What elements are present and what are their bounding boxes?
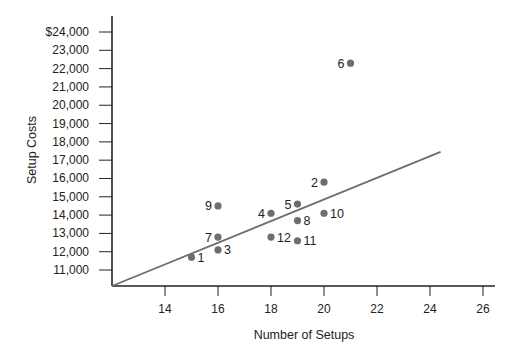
data-points: 123456789101112 [188, 57, 354, 265]
point-label: 6 [338, 57, 345, 71]
y-tick-label: 17,000 [52, 153, 89, 167]
x-tick-label: 24 [423, 302, 437, 316]
y-tick-label: $24,000 [46, 25, 90, 39]
data-point-1: 1 [188, 251, 205, 265]
point-label: 2 [311, 176, 318, 190]
x-tick-label: 14 [158, 302, 172, 316]
x-tick-label: 26 [476, 302, 490, 316]
x-tick-label: 20 [317, 302, 331, 316]
data-point-8: 8 [294, 214, 311, 228]
x-axis-title: Number of Setups [254, 328, 355, 342]
point-label: 9 [205, 199, 212, 213]
y-tick-label: 18,000 [52, 135, 89, 149]
regression-line [112, 152, 441, 286]
point-label: 1 [198, 251, 205, 265]
scatter-chart: $24,00023,00022,00021,00020,00019,00018,… [0, 0, 517, 354]
y-tick-label: 20,000 [52, 98, 89, 112]
data-point-11: 11 [294, 234, 317, 248]
y-tick-label: 16,000 [52, 171, 89, 185]
point-label: 3 [224, 243, 231, 257]
y-tick-label: 21,000 [52, 80, 89, 94]
point-label: 11 [304, 234, 317, 248]
y-tick-label: 15,000 [52, 190, 89, 204]
x-tick-label: 18 [264, 302, 278, 316]
y-tick-label: 19,000 [52, 117, 89, 131]
y-tick-label: 14,000 [52, 208, 89, 222]
data-point-4: 4 [258, 207, 275, 221]
y-tick-label: 23,000 [52, 43, 89, 57]
x-tick-label: 22 [370, 302, 384, 316]
y-tick-label: 13,000 [52, 226, 89, 240]
point-label: 8 [304, 214, 311, 228]
x-axis: 14161820222426 [112, 286, 495, 316]
data-point-12: 12 [267, 231, 291, 245]
point-label: 12 [277, 231, 291, 245]
point-label: 7 [205, 231, 212, 245]
y-tick-label: 11,000 [53, 263, 89, 277]
data-point-9: 9 [205, 199, 222, 213]
data-point-3: 3 [214, 243, 231, 257]
y-tick-label: 12,000 [52, 245, 89, 259]
y-axis: $24,00023,00022,00021,00020,00019,00018,… [46, 16, 112, 286]
point-label: 5 [285, 198, 292, 212]
x-tick-label: 16 [211, 302, 225, 316]
point-label: 4 [258, 207, 265, 221]
y-tick-label: 22,000 [52, 62, 89, 76]
data-point-6: 6 [338, 57, 355, 71]
data-point-10: 10 [320, 207, 344, 221]
y-axis-title: Setup Costs [25, 116, 39, 184]
data-point-2: 2 [311, 176, 328, 190]
point-label: 10 [330, 207, 344, 221]
